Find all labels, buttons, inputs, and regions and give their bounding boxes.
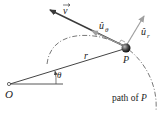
svg-text:û: û — [99, 20, 104, 31]
right-angle-marker — [119, 40, 125, 44]
radius-label: r — [84, 50, 88, 61]
particle-label: P — [122, 54, 129, 65]
svg-text:r: r — [147, 32, 150, 40]
particle-p — [122, 44, 131, 53]
svg-text:v: v — [63, 5, 68, 16]
path-label: path of P — [112, 93, 147, 103]
theta-arc — [55, 71, 56, 84]
radius-line — [10, 49, 124, 84]
svg-text:θ: θ — [105, 26, 109, 34]
unit-theta-label: û θ — [99, 20, 109, 34]
angle-label: θ — [57, 70, 62, 80]
svg-text:path of P: path of P — [112, 93, 147, 103]
origin-point — [7, 82, 10, 85]
unit-r-label: û r — [141, 26, 150, 40]
svg-text:û: û — [141, 26, 146, 37]
origin-label: O — [5, 88, 13, 100]
velocity-label: v — [63, 4, 70, 17]
polar-coordinates-diagram: O P r θ v û θ û r path of P — [0, 0, 163, 119]
